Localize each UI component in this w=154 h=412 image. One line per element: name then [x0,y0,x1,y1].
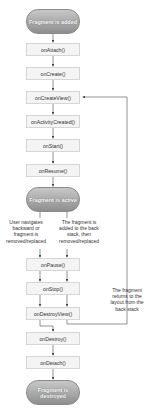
note-left-branch: User navigates backward or fragment is r… [4,219,48,244]
callback-onattach: onAttach() [26,43,80,56]
callback-onstop: onStop() [26,282,80,295]
callback-oncreateview: onCreateView() [26,91,80,104]
callback-ondetach: onDetach() [26,356,80,369]
callback-ondestroyview: onDestroyView() [26,307,80,320]
state-fragment-added: Fragment is added [26,9,80,34]
state-fragment-active: Fragment is active [26,187,80,212]
note-back-loop: The fragment returns to the layout from … [106,287,148,312]
callback-oncreate: onCreate() [26,67,80,80]
note-right-branch: The fragment is added to the back stack,… [56,219,102,244]
callback-ondestroy: onDestroy() [26,332,80,345]
callback-onactivitycreated: onActivityCreated() [26,115,80,128]
callback-onstart: onStart() [26,139,80,152]
state-fragment-destroyed: Fragment is destroyed [26,380,80,405]
callback-onpause: onPause() [26,258,80,271]
callback-onresume: onResume() [26,164,80,177]
